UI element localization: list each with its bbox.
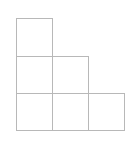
- grid-cell: [16, 56, 53, 94]
- grid-cell: [52, 56, 89, 94]
- grid-cell: [16, 93, 53, 131]
- grid-cell: [16, 18, 53, 57]
- grid-cell: [88, 93, 125, 131]
- grid-cell: [52, 93, 89, 131]
